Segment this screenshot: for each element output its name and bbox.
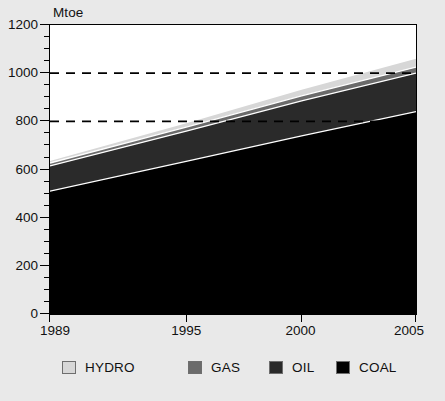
legend-label-gas: GAS xyxy=(211,360,240,375)
area-series-group xyxy=(50,59,416,314)
y-axis-minor-tick xyxy=(44,132,50,133)
y-axis-tick-label-1200: 1200 xyxy=(0,17,38,32)
y-axis-minor-tick xyxy=(44,48,50,49)
y-axis-tick-label-1000: 1000 xyxy=(0,65,38,80)
y-axis-minor-tick xyxy=(44,241,50,242)
x-axis-tick-label-1989: 1989 xyxy=(40,323,70,338)
legend-item-hydro: HYDRO xyxy=(62,356,135,378)
legend-swatch-hydro xyxy=(62,361,76,374)
y-axis-minor-tick xyxy=(44,277,50,278)
x-axis-tick-1995 xyxy=(186,314,187,322)
x-axis-tick-2005 xyxy=(415,314,416,322)
y-axis-minor-tick xyxy=(44,301,50,302)
legend-label-coal: COAL xyxy=(359,360,397,375)
legend-item-coal: COAL xyxy=(336,356,397,378)
legend-label-hydro: HYDRO xyxy=(85,360,135,375)
legend-item-gas: GAS xyxy=(188,356,240,378)
legend-label-oil: OIL xyxy=(292,360,314,375)
y-axis-minor-tick xyxy=(44,144,50,145)
chart-figure: Mtoe 020040060080010001200 HYDROGASOILCO… xyxy=(0,0,445,401)
stacked-area-plot xyxy=(50,25,416,314)
y-axis-tick-label-200: 200 xyxy=(0,257,38,272)
y-axis-minor-tick xyxy=(44,205,50,206)
legend-swatch-coal xyxy=(336,361,350,374)
y-axis-minor-tick xyxy=(44,181,50,182)
legend-swatch-oil xyxy=(269,361,283,374)
y-axis-minor-tick xyxy=(44,36,50,37)
y-axis-minor-tick xyxy=(44,108,50,109)
y-axis-tick-200 xyxy=(40,265,50,266)
y-axis-minor-tick xyxy=(44,193,50,194)
y-axis-tick-1200 xyxy=(40,24,50,25)
y-axis-unit-label: Mtoe xyxy=(53,5,83,20)
y-axis-tick-800 xyxy=(40,120,50,121)
y-axis-tick-labels: 020040060080010001200 xyxy=(0,0,38,401)
y-axis-minor-tick xyxy=(44,84,50,85)
x-axis-tick-2000 xyxy=(301,314,302,322)
y-axis-tick-600 xyxy=(40,169,50,170)
x-axis-tick-label-2005: 2005 xyxy=(394,323,424,338)
y-axis-minor-tick xyxy=(44,96,50,97)
plot-area xyxy=(49,24,417,315)
y-axis-tick-label-800: 800 xyxy=(0,113,38,128)
y-axis-minor-tick xyxy=(44,60,50,61)
y-axis-tick-label-400: 400 xyxy=(0,209,38,224)
y-axis-minor-tick xyxy=(44,289,50,290)
y-axis-minor-tick xyxy=(44,229,50,230)
y-axis-minor-tick xyxy=(44,157,50,158)
chart-legend: HYDROGASOILCOAL xyxy=(0,356,445,380)
y-axis-tick-label-0: 0 xyxy=(0,306,38,321)
y-axis-tick-label-600: 600 xyxy=(0,161,38,176)
legend-item-oil: OIL xyxy=(269,356,314,378)
legend-swatch-gas xyxy=(188,361,202,374)
x-axis-tick-label-1995: 1995 xyxy=(171,323,201,338)
y-axis-tick-1000 xyxy=(40,72,50,73)
x-axis-tick-1989 xyxy=(49,314,50,322)
y-axis-minor-tick xyxy=(44,253,50,254)
y-axis-tick-400 xyxy=(40,217,50,218)
x-axis-tick-label-2000: 2000 xyxy=(286,323,316,338)
